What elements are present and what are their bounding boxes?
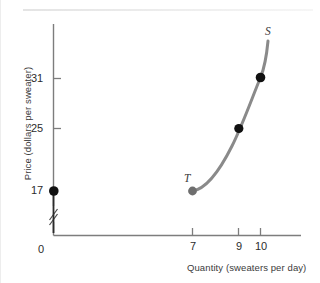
x-tick-label-9: 9: [229, 240, 249, 252]
x-tick-label-10: 10: [250, 240, 272, 252]
data-point-9-25: [234, 124, 243, 133]
supply-curve-label-s: S: [265, 25, 271, 37]
plot-area: [1, 0, 320, 283]
data-point-t: [188, 187, 197, 196]
y-axis-title: Price (dollars per sweater): [22, 54, 33, 194]
endpoint-label-t: T: [184, 172, 190, 184]
supply-curve-s: [193, 41, 269, 191]
supply-curve-figure: 31 25 17 0 7 9 10 S T Price (dollars per…: [0, 0, 320, 283]
origin-label: 0: [31, 243, 51, 255]
data-point-10-31: [256, 73, 266, 83]
x-axis-title: Quantity (sweaters per day): [187, 262, 306, 273]
data-point-axis-17: [49, 186, 59, 196]
x-tick-label-7: 7: [183, 240, 203, 252]
